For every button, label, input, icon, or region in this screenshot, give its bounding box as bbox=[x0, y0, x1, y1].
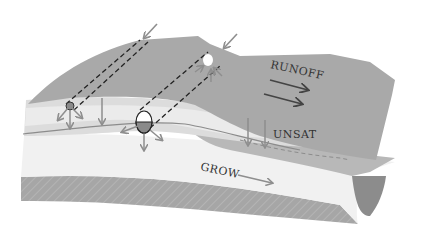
macropore-bubble bbox=[136, 111, 152, 133]
rain-arrow-left bbox=[144, 24, 157, 38]
soil-hydrology-diagram: RUNOFF UNSAT GROW bbox=[0, 0, 425, 243]
air-bubble bbox=[203, 54, 213, 66]
diagram-canvas: RUNOFF UNSAT GROW bbox=[0, 0, 425, 243]
stream-channel bbox=[352, 176, 386, 216]
label-unsat: UNSAT bbox=[273, 128, 317, 141]
rain-arrow-right bbox=[224, 34, 237, 48]
